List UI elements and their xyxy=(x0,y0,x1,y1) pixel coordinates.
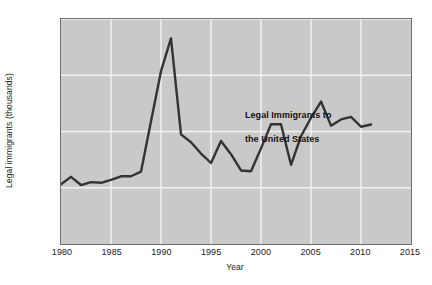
x-tick-1980: 1980 xyxy=(42,247,82,257)
chart-figure: Legal immigrants (thousands) 0 500 1,000… xyxy=(0,0,432,285)
x-tick-1985: 1985 xyxy=(92,247,132,257)
x-tick-2015: 2015 xyxy=(390,247,430,257)
series-annotation-label: Legal Immigrants to the United States xyxy=(245,97,331,145)
annotation-line-2: the United States xyxy=(245,134,319,144)
x-tick-2000: 2000 xyxy=(241,247,281,257)
chart-svg xyxy=(61,19,411,244)
x-tick-2010: 2010 xyxy=(340,247,380,257)
plot-area: Legal Immigrants to the United States xyxy=(60,18,412,245)
x-tick-1990: 1990 xyxy=(141,247,181,257)
y-axis-label: Legal immigrants (thousands) xyxy=(2,18,16,243)
annotation-line-1: Legal Immigrants to xyxy=(245,110,331,120)
x-tick-1995: 1995 xyxy=(191,247,231,257)
gridlines xyxy=(61,19,411,244)
x-axis-label: Year xyxy=(60,262,410,272)
x-tick-2005: 2005 xyxy=(291,247,331,257)
